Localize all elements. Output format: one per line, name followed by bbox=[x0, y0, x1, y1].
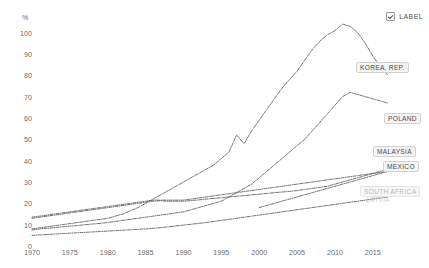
series-label-poland[interactable]: POLAND bbox=[384, 113, 421, 124]
series-label-latvia[interactable]: LATVIA bbox=[366, 196, 390, 203]
series-line bbox=[32, 24, 388, 229]
series-line bbox=[32, 197, 388, 235]
series-label-malaysia[interactable]: MALAYSIA bbox=[373, 146, 416, 157]
series-label-korea-rep[interactable]: KOREA, REP. bbox=[356, 62, 409, 73]
plot-area bbox=[0, 0, 429, 268]
chart-root: % LABEL 0102030405060708090100 197019751… bbox=[0, 0, 429, 268]
series-label-mexico[interactable]: MEXICO bbox=[383, 161, 419, 172]
series-line bbox=[32, 169, 388, 218]
